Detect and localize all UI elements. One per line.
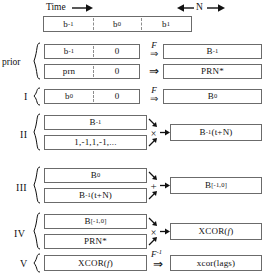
row-III-input-a-box: B0 [44, 168, 147, 183]
row-IV-output-box: XCOR(f) [170, 223, 262, 240]
prior-row2-cell-zero-label: 0 [115, 67, 120, 76]
group-label-III: III [16, 182, 27, 193]
time-right-arrow-icon [72, 4, 93, 12]
row-V-input-label: XCOR( [78, 259, 107, 268]
prior-row2-cell-prn: prn [45, 65, 93, 78]
row-I-input-box: b0 0 [44, 89, 140, 104]
row-V-output-label: xcor(lags) [197, 259, 235, 268]
row-V-input-paren: ) [110, 259, 113, 268]
row-III-merge-arrow-up-icon [149, 191, 157, 199]
row-IV-merge-arrow-down-icon [149, 218, 157, 226]
n-right-arrow-icon [207, 4, 225, 12]
row-II-merge-arrow-down-icon [149, 119, 157, 127]
timeline-cell-b0: b0 [93, 17, 141, 31]
row-V-input-box: XCOR(f) [44, 255, 147, 271]
group-label-V: V [20, 258, 28, 269]
row-IV-output-paren: ) [230, 227, 233, 236]
row-II-operator-multiply: × [148, 128, 159, 139]
prior-row1-double-arrow-icon: ⇒ [147, 49, 161, 59]
prior-row2-cell-zero: 0 [93, 65, 141, 78]
prior-row1-output-box: B-1 [163, 44, 262, 59]
prior-row2-cell-prn-label: prn [63, 67, 76, 76]
prior-row1-cell-b-1: b-1 [45, 45, 93, 58]
group-label-IV: IV [14, 228, 25, 239]
row-II-input-b-box: 1,-1,1,-1,... [44, 135, 147, 150]
prior-row1-cell-zero-label: 0 [115, 47, 120, 56]
row-IV-merge-arrow-up-icon [149, 237, 157, 245]
row-IV-input-a-box: B[-1,0] [44, 214, 147, 229]
row-III-input-b-suffix: (t+N) [91, 191, 112, 200]
row-II-input-b-label: 1,-1,1,-1,... [74, 138, 116, 147]
timeline-box: b-1 b0 b1 [43, 16, 192, 32]
row-II-output-box: B-1(t+N) [170, 124, 262, 141]
row-I-cell-zero: 0 [93, 90, 141, 103]
prior-row2-output-label: PRN* [201, 67, 224, 76]
row-I-output-box: B0 [163, 89, 262, 104]
n-left-arrow-icon [177, 4, 194, 12]
time-axis-label: Time [46, 2, 66, 12]
prior-row2-output-box: PRN* [163, 64, 262, 79]
prior-row1-input-box: b-1 0 [44, 44, 140, 59]
row-I-double-arrow-icon: ⇒ [147, 94, 161, 104]
timeline-cell-b1: b1 [141, 17, 191, 31]
row-V-double-arrow-icon: ⇒ [150, 258, 166, 270]
row-II-output-suffix: (t+N) [211, 128, 232, 137]
timeline-cell-b-1: b-1 [44, 17, 93, 31]
row-IV-input-b-label: PRN* [84, 237, 107, 246]
row-V-output-box: xcor(lags) [170, 255, 262, 271]
row-III-output-arrow-icon [160, 183, 170, 189]
row-IV-input-b-box: PRN* [44, 234, 147, 249]
row-III-merge-arrow-down-icon [149, 172, 157, 180]
row-II-output-arrow-icon [160, 130, 170, 136]
row-III-output-box: B[-1,0] [170, 177, 262, 194]
group-label-I: I [24, 91, 28, 102]
row-II-input-a-box: B-1 [44, 115, 147, 130]
prior-row2-input-box: prn 0 [44, 64, 140, 79]
row-I-cell-zero-label: 0 [115, 92, 120, 101]
row-IV-output-label: XCOR( [199, 227, 228, 236]
group-label-II: II [20, 129, 27, 140]
row-III-operator-plus: + [148, 180, 159, 192]
prior-row1-cell-zero: 0 [93, 45, 141, 58]
row-II-merge-arrow-up-icon [149, 138, 157, 146]
prior-row2-double-arrow-icon: ⇒ [146, 65, 162, 77]
group-label-prior: prior [2, 57, 20, 67]
row-IV-output-arrow-icon [160, 229, 170, 235]
signal-processing-flow-diagram: Time N b-1 b0 b1 prior [0, 0, 267, 276]
n-span-label: N [196, 2, 203, 12]
row-IV-operator-multiply: × [148, 227, 159, 238]
row-I-cell-b0: b0 [45, 90, 93, 103]
row-III-input-b-box: B-1(t+N) [44, 188, 147, 203]
